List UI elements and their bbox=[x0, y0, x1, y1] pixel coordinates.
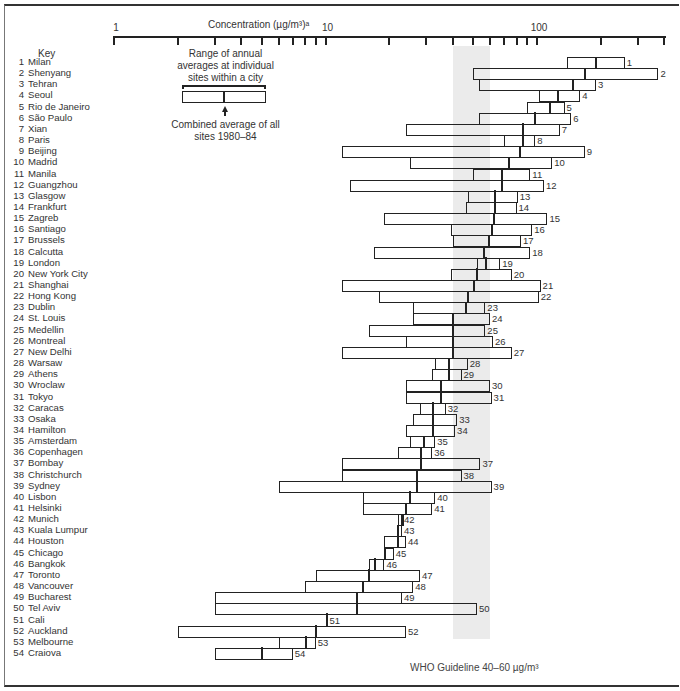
city-average-line bbox=[534, 112, 536, 124]
city-average-line bbox=[473, 280, 475, 292]
city-name: Chicago bbox=[28, 547, 63, 558]
city-average-line bbox=[368, 569, 370, 581]
city-name: New Delhi bbox=[28, 346, 72, 357]
bar-number-label: 10 bbox=[554, 157, 565, 169]
x-axis-tick bbox=[278, 36, 280, 45]
bar-number-label: 50 bbox=[479, 603, 490, 615]
city-average-line bbox=[405, 503, 407, 515]
x-axis-line bbox=[114, 36, 666, 38]
x-axis-tick bbox=[388, 36, 390, 45]
city-average-line bbox=[305, 636, 307, 648]
city-average-line bbox=[261, 647, 263, 659]
x-tick-label: 100 bbox=[531, 22, 548, 33]
x-axis-tick bbox=[214, 36, 216, 45]
city-average-line bbox=[315, 625, 317, 637]
bar-number-label: 18 bbox=[532, 247, 543, 259]
bar-number-label: 4 bbox=[582, 90, 587, 102]
bar-number-label: 44 bbox=[408, 536, 419, 548]
city-average-line bbox=[465, 302, 467, 314]
bar-number-label: 52 bbox=[408, 626, 419, 638]
city-average-line bbox=[522, 135, 524, 147]
x-tick-label: 10 bbox=[322, 22, 333, 33]
legend-average-label: Combined average of all sites 1980–84 bbox=[168, 119, 283, 143]
city-name: Copenhagen bbox=[28, 446, 83, 457]
city-name: Athens bbox=[28, 368, 58, 379]
bar-number-label: 12 bbox=[546, 180, 557, 192]
x-axis-tick bbox=[637, 36, 639, 45]
x-axis-tick bbox=[315, 36, 317, 45]
city-average-line bbox=[448, 369, 450, 381]
city-name: Bucharest bbox=[28, 591, 71, 602]
bar-number-label: 22 bbox=[541, 291, 552, 303]
x-axis-tick bbox=[489, 36, 491, 45]
city-name: Helsinki bbox=[28, 502, 62, 513]
x-tick-label: 1 bbox=[113, 22, 119, 33]
bar-number-label: 53 bbox=[318, 637, 329, 649]
city-number: 54 bbox=[0, 647, 24, 659]
city-name: Hamilton bbox=[28, 424, 66, 435]
city-name: Brussels bbox=[28, 234, 65, 245]
city-average-line bbox=[384, 547, 386, 559]
city-name: Guangzhou bbox=[28, 179, 78, 190]
city-name: Medellin bbox=[28, 324, 64, 335]
city-name: Shenyang bbox=[28, 67, 71, 78]
legend-range-bracket bbox=[182, 85, 266, 89]
city-name: Kuala Lumpur bbox=[28, 524, 88, 535]
city-name: Craiova bbox=[28, 647, 61, 658]
bar-number-label: 37 bbox=[482, 458, 493, 470]
city-name: Caracas bbox=[28, 402, 64, 413]
city-name: St. Louis bbox=[28, 312, 65, 323]
x-axis-tick bbox=[472, 36, 474, 45]
city-name: New York City bbox=[28, 268, 88, 279]
city-average-line bbox=[595, 57, 597, 69]
city-name: Shanghai bbox=[28, 279, 69, 290]
city-average-line bbox=[485, 257, 487, 269]
bar-number-label: 27 bbox=[514, 347, 525, 359]
city-average-line bbox=[584, 68, 586, 80]
city-name: Munich bbox=[28, 513, 59, 524]
city-average-line bbox=[501, 179, 503, 191]
city-name: Warsaw bbox=[28, 357, 62, 368]
city-name: Christchurch bbox=[28, 469, 82, 480]
city-range-bar bbox=[342, 347, 512, 359]
city-average-line bbox=[356, 603, 358, 615]
city-key-row: 54Craiova bbox=[0, 647, 61, 659]
city-average-line bbox=[432, 424, 434, 436]
bar-number-label: 7 bbox=[562, 124, 567, 136]
x-axis-tick bbox=[600, 36, 602, 45]
city-name: Houston bbox=[28, 535, 64, 546]
city-name: Xian bbox=[28, 123, 47, 134]
bar-number-label: 45 bbox=[396, 548, 407, 560]
bar-number-label: 16 bbox=[534, 224, 545, 236]
x-axis-tick bbox=[425, 36, 427, 45]
city-name: Calcutta bbox=[28, 246, 63, 257]
city-name: Bangkok bbox=[28, 558, 65, 569]
bar-number-label: 54 bbox=[295, 648, 306, 660]
city-name: Zagreb bbox=[28, 212, 58, 223]
city-name: Tehran bbox=[28, 78, 57, 89]
city-average-line bbox=[549, 101, 551, 113]
bar-number-label: 31 bbox=[494, 392, 505, 404]
city-average-line bbox=[362, 581, 364, 593]
x-axis-tick bbox=[292, 36, 294, 45]
x-axis-tick bbox=[325, 36, 327, 45]
city-name: Beijing bbox=[28, 145, 57, 156]
city-average-line bbox=[508, 157, 510, 169]
city-name: Rio de Janeiro bbox=[28, 101, 90, 112]
city-name: Frankfurt bbox=[28, 201, 66, 212]
x-axis-tick bbox=[503, 36, 505, 45]
city-name: Melbourne bbox=[28, 636, 73, 647]
city-average-line bbox=[374, 558, 376, 570]
city-average-line bbox=[409, 491, 411, 503]
bar-number-label: 41 bbox=[434, 503, 445, 515]
city-name: Santiago bbox=[28, 223, 66, 234]
legend-range-label: Range of annual averages at individual s… bbox=[168, 48, 283, 84]
city-average-line bbox=[476, 268, 478, 280]
city-name: Madrid bbox=[28, 156, 57, 167]
city-average-line bbox=[467, 291, 469, 303]
bar-number-label: 6 bbox=[573, 113, 578, 125]
city-average-line bbox=[557, 90, 559, 102]
who-guideline-label: WHO Guideline 40–60 µg/m³ bbox=[410, 662, 539, 673]
city-average-line bbox=[491, 224, 493, 236]
city-name: Manila bbox=[28, 168, 56, 179]
